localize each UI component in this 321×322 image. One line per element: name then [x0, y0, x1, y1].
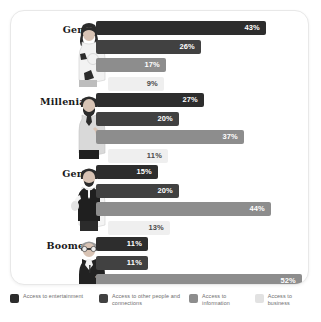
bars-gen-x: 15% 20% 44% 13%: [96, 165, 309, 239]
bar-value: 26%: [179, 43, 201, 51]
bar-connections[interactable]: 11%: [96, 256, 148, 270]
bar-entertainment[interactable]: 43%: [96, 21, 266, 35]
chart-group-boomers: Boomers 11%: [11, 237, 309, 285]
bar-row: 37%: [96, 130, 309, 144]
bar-business[interactable]: 13%: [108, 221, 170, 235]
bar-business[interactable]: 11%: [108, 149, 168, 163]
bar-row: 20%: [96, 184, 309, 198]
bar-connections[interactable]: 20%: [96, 112, 179, 126]
bar-information[interactable]: 52%: [96, 274, 302, 285]
chart-group-gen-x: Gen X 15% 20%: [11, 165, 309, 231]
legend-swatch-icon: [255, 294, 264, 303]
legend-item-information[interactable]: Access to information: [189, 293, 255, 308]
bar-row: 11%: [96, 256, 309, 270]
bar-information[interactable]: 37%: [96, 130, 244, 144]
bar-value: 11%: [127, 259, 148, 267]
bars-boomers: 11% 11% 52% 7%: [96, 237, 309, 285]
chart-group-millenials: Millenials 27% 20%: [11, 93, 309, 159]
bar-row: 17%: [96, 58, 309, 72]
legend-item-entertainment[interactable]: Access to entertainment: [10, 293, 99, 303]
bar-row: 43%: [96, 21, 309, 35]
legend-item-connections[interactable]: Access to other people and connections: [99, 293, 189, 308]
bar-row: 27%: [96, 93, 309, 107]
legend-item-business[interactable]: Access to business: [255, 293, 311, 308]
bar-value: 20%: [157, 115, 179, 123]
bar-connections[interactable]: 20%: [96, 184, 179, 198]
bar-value: 13%: [148, 224, 170, 232]
bar-value: 20%: [157, 187, 179, 195]
bar-value: 27%: [182, 96, 204, 104]
bar-row: 13%: [96, 221, 309, 235]
bar-row: 44%: [96, 202, 309, 216]
bar-row: 52%: [96, 274, 309, 285]
bar-row: 26%: [96, 40, 309, 54]
bar-business[interactable]: 9%: [108, 77, 164, 91]
bar-connections[interactable]: 26%: [96, 40, 201, 54]
legend-label: Access to information: [202, 293, 255, 308]
bar-value: 44%: [249, 205, 271, 213]
legend-label: Access to entertainment: [23, 293, 83, 300]
bars-millenials: 27% 20% 37% 11%: [96, 93, 309, 167]
bar-value: 11%: [147, 152, 168, 160]
bar-information[interactable]: 17%: [96, 58, 166, 72]
bar-value: 37%: [222, 133, 244, 141]
legend-swatch-icon: [99, 294, 108, 303]
chart-container: Gen Z 43%: [0, 0, 321, 322]
legend-label: Access to other people and connections: [112, 293, 189, 308]
bar-value: 17%: [144, 61, 166, 69]
bar-information[interactable]: 44%: [96, 202, 271, 216]
bar-value: 15%: [136, 168, 158, 176]
chart-group-gen-z: Gen Z 43%: [11, 21, 309, 87]
legend-swatch-icon: [189, 294, 198, 303]
bar-value: 43%: [244, 24, 266, 32]
bar-value: 11%: [127, 240, 148, 248]
legend-label: Access to business: [268, 293, 311, 308]
bar-row: 11%: [96, 149, 309, 163]
bar-row: 20%: [96, 112, 309, 126]
bar-entertainment[interactable]: 27%: [96, 93, 204, 107]
bar-entertainment[interactable]: 15%: [96, 165, 158, 179]
bar-value: 52%: [280, 277, 302, 285]
bar-row: 15%: [96, 165, 309, 179]
bars-gen-z: 43% 26% 17% 9%: [96, 21, 309, 95]
chart-legend: Access to entertainment Access to other …: [10, 293, 311, 317]
bar-entertainment[interactable]: 11%: [96, 237, 148, 251]
bar-value: 9%: [147, 80, 164, 88]
chart-card: Gen Z 43%: [10, 10, 309, 285]
legend-swatch-icon: [10, 294, 19, 303]
bar-row: 9%: [96, 77, 309, 91]
bar-row: 11%: [96, 237, 309, 251]
